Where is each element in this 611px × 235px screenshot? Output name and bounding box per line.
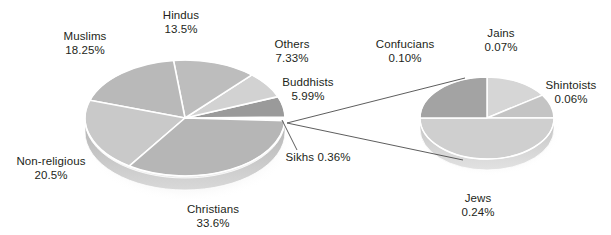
main-pie-slices — [85, 60, 285, 176]
label-jains-name: Jains — [484, 27, 517, 41]
label-jains: Jains 0.07% — [484, 27, 517, 54]
label-jews: Jews 0.24% — [461, 192, 494, 219]
label-hindus-value: 13.5% — [163, 23, 199, 37]
label-confucians: Confucians 0.10% — [376, 38, 435, 65]
label-buddhists-name: Buddhists — [282, 76, 333, 90]
pie-chart-figure: Hindus 13.5% Muslims 18.25% Others 7.33%… — [0, 0, 611, 235]
label-muslims-name: Muslims — [64, 30, 107, 44]
label-buddhists-value: 5.99% — [282, 90, 333, 104]
label-christians-name: Christians — [187, 203, 239, 217]
label-hindus-name: Hindus — [163, 9, 199, 23]
label-shintoists-value: 0.06% — [546, 93, 597, 107]
main-pie — [85, 60, 285, 190]
label-shintoists: Shintoists 0.06% — [546, 79, 597, 106]
label-non-religious-value: 20.5% — [16, 169, 85, 183]
label-muslims: Muslims 18.25% — [64, 30, 107, 57]
label-buddhists: Buddhists 5.99% — [282, 76, 333, 103]
label-hindus: Hindus 13.5% — [163, 9, 199, 36]
label-sikhs-name: Sikhs — [285, 151, 314, 163]
label-sikhs: Sikhs 0.36% — [285, 151, 350, 165]
label-confucians-name: Confucians — [376, 38, 435, 52]
label-jains-value: 0.07% — [484, 41, 517, 55]
label-others-value: 7.33% — [274, 52, 309, 66]
slice-confucians — [420, 77, 487, 118]
label-others-name: Others — [274, 38, 309, 52]
label-non-religious: Non-religious 20.5% — [16, 155, 85, 182]
label-sikhs-value: 0.36% — [317, 151, 350, 163]
label-jews-value: 0.24% — [461, 206, 494, 220]
secondary-pie — [420, 77, 554, 170]
label-muslims-value: 18.25% — [64, 44, 107, 58]
label-others: Others 7.33% — [274, 38, 309, 65]
label-non-religious-name: Non-religious — [16, 155, 85, 169]
label-jews-name: Jews — [461, 192, 494, 206]
label-shintoists-name: Shintoists — [546, 79, 597, 93]
label-christians: Christians 33.6% — [187, 203, 239, 230]
label-confucians-value: 0.10% — [376, 52, 435, 66]
label-christians-value: 33.6% — [187, 217, 239, 231]
